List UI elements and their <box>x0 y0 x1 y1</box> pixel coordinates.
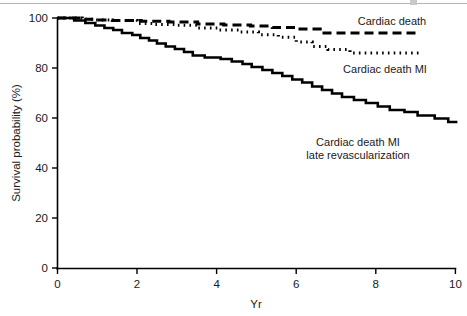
y-tick-label-40: 40 <box>35 162 48 174</box>
x-tick-label-8: 8 <box>373 278 379 290</box>
survival-chart: 100 80 60 40 20 0 0 2 4 6 8 10 Yr Surviv… <box>0 0 467 316</box>
figure-container: 100 80 60 40 20 0 0 2 4 6 8 10 Yr Surviv… <box>0 0 467 316</box>
x-tick-label-4: 4 <box>213 278 220 290</box>
y-axis-tick-labels: 100 80 60 40 20 0 <box>29 12 48 274</box>
x-axis-ticks <box>58 269 456 275</box>
x-axis-title: Yr <box>250 298 262 310</box>
y-axis-ticks <box>52 18 58 268</box>
x-tick-label-0: 0 <box>54 278 60 290</box>
series-annotations: Cardiac death Cardiac death MI Cardiac d… <box>306 15 427 161</box>
y-tick-label-0: 0 <box>42 262 48 274</box>
y-axis-title: Survival probability (%) <box>10 84 22 202</box>
series-label-cardiac-death: Cardiac death <box>358 15 427 27</box>
x-tick-label-10: 10 <box>449 278 462 290</box>
x-tick-label-2: 2 <box>134 278 140 290</box>
series-label-late-revasc-line2: late revascularization <box>306 149 409 161</box>
series-label-cardiac-death-mi: Cardiac death MI <box>343 63 427 75</box>
x-tick-label-6: 6 <box>293 278 299 290</box>
y-tick-label-100: 100 <box>29 12 48 24</box>
x-axis-tick-labels: 0 2 4 6 8 10 <box>54 278 462 290</box>
y-tick-label-80: 80 <box>35 62 48 74</box>
y-tick-label-20: 20 <box>35 212 48 224</box>
y-tick-label-60: 60 <box>35 112 48 124</box>
series-label-late-revasc-line1: Cardiac death MI <box>316 136 400 148</box>
